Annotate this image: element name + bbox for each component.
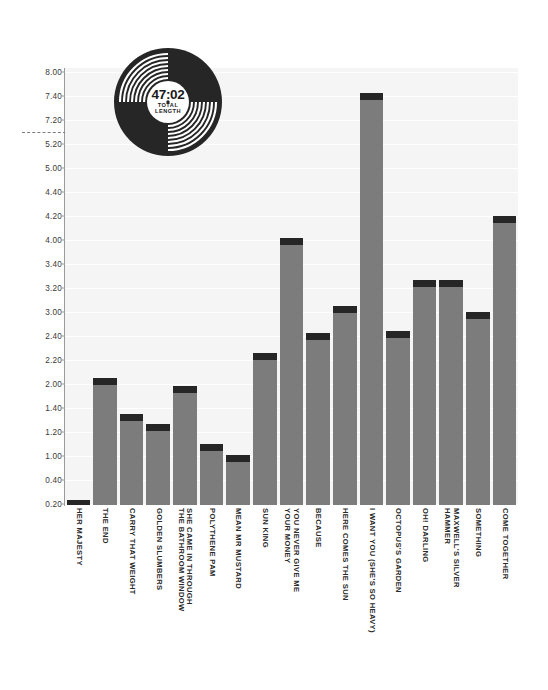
x-axis-label: COME TOGETHER	[500, 508, 509, 580]
x-axis-label-cell[interactable]: OCTOPUS'S GARDEN	[385, 508, 412, 683]
bar-top-cap	[173, 386, 197, 393]
bar[interactable]	[67, 500, 91, 505]
bar[interactable]	[333, 306, 357, 505]
bar-top-cap	[280, 238, 304, 245]
x-axis-label-cell[interactable]: POLYTHENE PAM	[198, 508, 225, 683]
y-axis-tick-label: 3.40	[22, 260, 62, 269]
x-axis-label-cell[interactable]: I WANT YOU (SHE'S SO HEAVY)	[358, 508, 385, 683]
bar-top-cap	[439, 280, 463, 287]
bar-top-cap	[253, 353, 277, 360]
bar[interactable]	[93, 378, 117, 505]
x-axis-label: HER MAJESTY	[74, 508, 83, 566]
x-axis-label-cell[interactable]: GOLDEN SLUMBERS	[145, 508, 172, 683]
y-axis-tick-label: 5.20	[22, 140, 62, 149]
y-axis-tick-label: 4.40	[22, 188, 62, 197]
bar-column[interactable]	[251, 68, 278, 505]
y-axis-tick-label: 2.20	[22, 356, 62, 365]
x-axis-label: MAXWELL'S SILVER HAMMER	[443, 508, 460, 588]
x-axis-label-cell[interactable]: COME TOGETHER	[491, 508, 518, 683]
x-axis-label: OH! DARLING	[420, 508, 429, 562]
bar-column[interactable]	[411, 68, 438, 505]
bar-column[interactable]	[465, 68, 492, 505]
chart-page: 8.007.407.205.205.004.404.204.003.403.20…	[0, 0, 548, 690]
bar-top-cap	[466, 312, 490, 319]
x-axis-label-cell[interactable]: MEAN MR MUSTARD	[225, 508, 252, 683]
y-axis-tick-label: 4.00	[22, 236, 62, 245]
bar-column[interactable]	[491, 68, 518, 505]
bar[interactable]	[253, 353, 277, 505]
x-axis-label: MEAN MR MUSTARD	[234, 508, 243, 589]
bar-top-cap	[360, 93, 384, 100]
bar-column[interactable]	[305, 68, 332, 505]
x-axis-label-cell[interactable]: THE END	[92, 508, 119, 683]
y-axis-tick-label: 7.40	[22, 92, 62, 101]
x-axis-label: SHE CAME IN THROUGH THE BATHROOM WINDOW	[176, 508, 193, 612]
y-axis-tick-label: 4.20	[22, 212, 62, 221]
bar-top-cap	[386, 331, 410, 338]
y-axis-tick-label: 7.20	[22, 116, 62, 125]
bar-top-cap	[146, 424, 170, 431]
bar[interactable]	[280, 238, 304, 505]
y-axis-tick-label: 3.00	[22, 308, 62, 317]
x-axis-label: GOLDEN SLUMBERS	[154, 508, 163, 590]
x-axis-label-cell[interactable]: SUN KING	[251, 508, 278, 683]
bar-top-cap	[413, 280, 437, 287]
y-axis-tick-label: 8.00	[22, 68, 62, 77]
x-axis-label-cell[interactable]: SHE CAME IN THROUGH THE BATHROOM WINDOW	[172, 508, 199, 683]
bar[interactable]	[413, 280, 437, 505]
y-axis-tick-label: 0.40	[22, 476, 62, 485]
x-axis-label-cell[interactable]: MAXWELL'S SILVER HAMMER	[438, 508, 465, 683]
y-axis-tick-label: 3.20	[22, 284, 62, 293]
x-axis-label-cell[interactable]: HER MAJESTY	[65, 508, 92, 683]
y-axis-tick-label: 0.20	[22, 500, 62, 509]
bar-column[interactable]	[438, 68, 465, 505]
bar-top-cap	[333, 306, 357, 313]
record-total-time: 47:02	[112, 87, 224, 102]
x-axis-label-cell[interactable]: BECAUSE	[305, 508, 332, 683]
x-axis-label-cell[interactable]: SOMETHING	[465, 508, 492, 683]
vinyl-record-icon: 47:02 TOTALLENGTH	[112, 46, 224, 158]
bar-column[interactable]	[225, 68, 252, 505]
bar-top-cap	[226, 455, 250, 462]
bar-column[interactable]	[278, 68, 305, 505]
x-axis-label: POLYTHENE PAM	[207, 508, 216, 577]
bar-top-cap	[67, 500, 91, 505]
x-axis-label: I WANT YOU (SHE'S SO HEAVY)	[367, 508, 376, 633]
bar[interactable]	[146, 424, 170, 505]
bar[interactable]	[466, 312, 490, 505]
bar-column[interactable]	[331, 68, 358, 505]
x-axis-label-cell[interactable]: YOU NEVER GIVE ME YOUR MONEY	[278, 508, 305, 683]
bar-column[interactable]	[65, 68, 92, 505]
y-axis-tick-label: 2.00	[22, 380, 62, 389]
bar[interactable]	[493, 216, 517, 505]
bar[interactable]	[439, 280, 463, 505]
x-axis-label: HERE COMES THE SUN	[340, 508, 349, 601]
bar[interactable]	[173, 386, 197, 505]
bar-column[interactable]	[385, 68, 412, 505]
bar-top-cap	[200, 444, 224, 451]
x-axis-label: CARRY THAT WEIGHT	[127, 508, 136, 595]
x-axis-label: OCTOPUS'S GARDEN	[394, 508, 403, 593]
x-axis-labels: HER MAJESTYTHE ENDCARRY THAT WEIGHTGOLDE…	[65, 508, 518, 683]
bar-column[interactable]	[358, 68, 385, 505]
record-caption-line2: LENGTH	[155, 108, 181, 114]
bar-top-cap	[93, 378, 117, 385]
bar-top-cap	[120, 414, 144, 421]
x-axis-label-cell[interactable]: CARRY THAT WEIGHT	[118, 508, 145, 683]
x-axis-label: BECAUSE	[314, 508, 323, 548]
y-axis-tick-label: 1.00	[22, 452, 62, 461]
x-axis-label-cell[interactable]: HERE COMES THE SUN	[331, 508, 358, 683]
bar[interactable]	[386, 331, 410, 505]
bar[interactable]	[120, 414, 144, 505]
x-axis-label: YOU NEVER GIVE ME YOUR MONEY	[283, 508, 300, 592]
bar[interactable]	[226, 455, 250, 505]
y-axis: 8.007.407.205.205.004.404.204.003.403.20…	[18, 0, 62, 690]
axis-break-dashes	[22, 132, 66, 133]
y-axis-tick-label: 5.00	[22, 164, 62, 173]
bar[interactable]	[306, 333, 330, 505]
bar[interactable]	[200, 444, 224, 505]
y-axis-tick-label: 1.20	[22, 428, 62, 437]
x-axis-label-cell[interactable]: OH! DARLING	[411, 508, 438, 683]
y-axis-tick-label: 2.40	[22, 332, 62, 341]
bar[interactable]	[360, 93, 384, 505]
